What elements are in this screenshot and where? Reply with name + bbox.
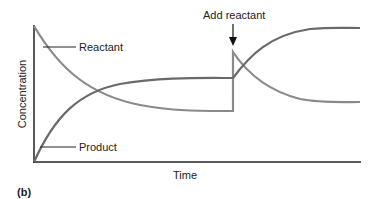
- add-reactant-label: Add reactant: [203, 9, 265, 21]
- panel-label: (b): [17, 186, 31, 198]
- y-axis-label: Concentration: [16, 60, 28, 129]
- concentration-chart: Reactant Product Add reactant Time Conce…: [0, 0, 378, 199]
- product-label: Product: [79, 141, 117, 153]
- arrow-down-icon: [229, 37, 237, 46]
- x-axis-label: Time: [173, 169, 197, 181]
- reactant-label: Reactant: [79, 41, 123, 53]
